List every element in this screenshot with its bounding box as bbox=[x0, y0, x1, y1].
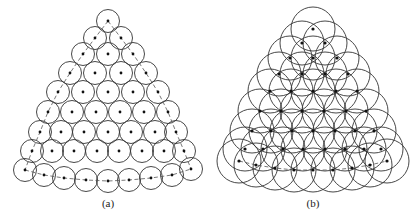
disk-center-dot bbox=[311, 129, 314, 132]
disk-center-dot bbox=[353, 129, 356, 132]
disk-center-dot bbox=[323, 147, 326, 150]
disk-center-dot bbox=[31, 150, 34, 153]
disk-center-dot bbox=[385, 159, 388, 162]
disk-center-dot bbox=[323, 41, 326, 44]
disk-center-dot bbox=[130, 131, 133, 134]
disk-center-dot bbox=[311, 27, 314, 30]
disk-center-dot bbox=[107, 20, 110, 23]
disk-center-dot bbox=[300, 72, 303, 75]
disk-center-dot bbox=[301, 147, 304, 150]
disk-center-dot bbox=[379, 147, 382, 150]
disk-center-dot bbox=[71, 111, 74, 114]
disk-center-dot bbox=[63, 177, 66, 180]
disk-center-dot bbox=[350, 166, 353, 169]
disk-center-dot bbox=[141, 150, 144, 153]
disk-center-dot bbox=[163, 150, 166, 153]
disk-center-dot bbox=[364, 109, 367, 112]
disk-center-dot bbox=[83, 131, 86, 134]
disk-center-dot bbox=[346, 72, 349, 75]
disk-center-dot bbox=[154, 131, 157, 134]
disk-center-dot bbox=[323, 72, 326, 75]
disk-center-dot bbox=[254, 163, 257, 166]
dashed-boundary-path bbox=[25, 169, 191, 181]
disk-center-dot bbox=[175, 131, 178, 134]
disk-center-dot bbox=[183, 150, 186, 153]
disk-center-dot bbox=[311, 56, 314, 59]
disk-center-dot bbox=[258, 109, 261, 112]
disk-center-dot bbox=[120, 72, 123, 75]
disk-center-dot bbox=[82, 53, 85, 56]
disk-center-dot bbox=[150, 177, 153, 180]
disk-center-dot bbox=[268, 89, 271, 92]
disk-center-dot bbox=[95, 111, 98, 114]
dashed-boundary-path bbox=[25, 21, 108, 170]
disk-center-dot bbox=[273, 166, 276, 169]
disk-center-dot bbox=[281, 147, 284, 150]
disk-center-dot bbox=[132, 53, 135, 56]
disk-center-dot bbox=[237, 159, 240, 162]
disk-center-dot bbox=[24, 169, 27, 172]
disk-center-dot bbox=[120, 37, 123, 40]
disk-center-dot bbox=[96, 150, 99, 153]
disk-center-dot bbox=[143, 111, 146, 114]
disk-center-dot bbox=[94, 72, 97, 75]
disk-center-dot bbox=[362, 147, 365, 150]
disk-center-dot bbox=[243, 147, 246, 150]
disk-center-dot bbox=[69, 72, 72, 75]
disk-center-dot bbox=[128, 179, 131, 182]
disk-center-dot bbox=[290, 129, 293, 132]
disk-center-dot bbox=[57, 91, 60, 94]
disk-center-dot bbox=[82, 91, 85, 94]
disk-center-dot bbox=[190, 168, 193, 171]
panel-a-caption: (a) bbox=[102, 197, 114, 209]
disk-center-dot bbox=[269, 129, 272, 132]
disk-center-dot bbox=[107, 180, 110, 183]
disk-center-dot bbox=[277, 72, 280, 75]
disk-center-dot bbox=[322, 109, 325, 112]
disk-center-dot bbox=[288, 56, 291, 59]
panel-b-overlapping-disks bbox=[217, 7, 409, 192]
panel-b-caption: (b) bbox=[307, 197, 320, 209]
disk-covering-figure bbox=[0, 0, 419, 223]
disk-center-dot bbox=[107, 131, 110, 134]
disk-center-dot bbox=[47, 111, 50, 114]
disk-center-dot bbox=[344, 109, 347, 112]
disk-center-dot bbox=[157, 91, 160, 94]
disk-center-dot bbox=[43, 174, 46, 177]
disk-center-dot bbox=[335, 56, 338, 59]
disk-center-dot bbox=[51, 150, 54, 153]
disk-center-dot bbox=[119, 111, 122, 114]
disk-center-dot bbox=[333, 129, 336, 132]
disk-center-dot bbox=[289, 89, 292, 92]
disk-center-dot bbox=[292, 168, 295, 171]
disk-center-dot bbox=[311, 168, 314, 171]
disk-center-dot bbox=[171, 174, 174, 177]
panel-a-small-disks bbox=[14, 10, 203, 193]
disk-center-dot bbox=[372, 129, 375, 132]
disk-center-dot bbox=[300, 109, 303, 112]
disk-center-dot bbox=[107, 53, 110, 56]
disk-center-dot bbox=[250, 129, 253, 132]
disk-center-dot bbox=[355, 89, 358, 92]
disk-center-dot bbox=[368, 163, 371, 166]
disk-center-dot bbox=[60, 131, 63, 134]
disk-center-dot bbox=[85, 179, 88, 182]
disk-center-dot bbox=[311, 89, 314, 92]
disk-center-dot bbox=[132, 91, 135, 94]
disk-center-dot bbox=[334, 89, 337, 92]
disk-center-dot bbox=[331, 168, 334, 171]
disk-center-dot bbox=[39, 131, 42, 134]
disk-center-dot bbox=[261, 147, 264, 150]
dashed-boundary-path bbox=[108, 21, 191, 169]
disk-center-dot bbox=[73, 150, 76, 153]
disk-center-dot bbox=[300, 41, 303, 44]
disk-center-dot bbox=[145, 72, 148, 75]
disk-center-dot bbox=[167, 111, 170, 114]
disk-center-dot bbox=[94, 37, 97, 40]
disk-center-dot bbox=[279, 109, 282, 112]
disk-center-dot bbox=[343, 147, 346, 150]
disk-center-dot bbox=[107, 91, 110, 94]
disk-center-dot bbox=[118, 150, 121, 153]
